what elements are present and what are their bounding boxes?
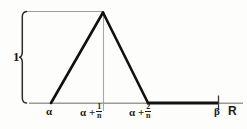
fraction-2-over-n-numerator: 2 bbox=[146, 103, 150, 111]
fraction-1-over-n-numerator: 1 bbox=[97, 103, 101, 111]
tick-label-alpha-plus-2-over-n-base: α + bbox=[129, 107, 144, 118]
tick-label-beta: β bbox=[214, 106, 220, 117]
fraction-1-over-n-denominator: n bbox=[97, 112, 101, 120]
figure-container: 1 α α + 1 n α + 2 n β R bbox=[0, 0, 247, 129]
fraction-1-over-n: 1 n bbox=[96, 103, 102, 121]
height-brace bbox=[20, 12, 27, 104]
fraction-2-over-n-denominator: n bbox=[146, 112, 150, 120]
tick-label-alpha-plus-1-over-n: α + 1 n bbox=[80, 104, 102, 122]
tick-label-alpha: α bbox=[46, 106, 52, 117]
height-label-one: 1 bbox=[13, 50, 20, 63]
tick-label-alpha-plus-1-over-n-base: α + bbox=[80, 107, 95, 118]
x-axis-label: R bbox=[228, 105, 237, 117]
triangle-rising-edge bbox=[51, 13, 103, 104]
triangle-falling-edge bbox=[103, 13, 148, 104]
plot-canvas bbox=[0, 0, 247, 129]
tick-label-alpha-plus-2-over-n: α + 2 n bbox=[129, 104, 151, 122]
fraction-2-over-n: 2 n bbox=[145, 103, 151, 121]
